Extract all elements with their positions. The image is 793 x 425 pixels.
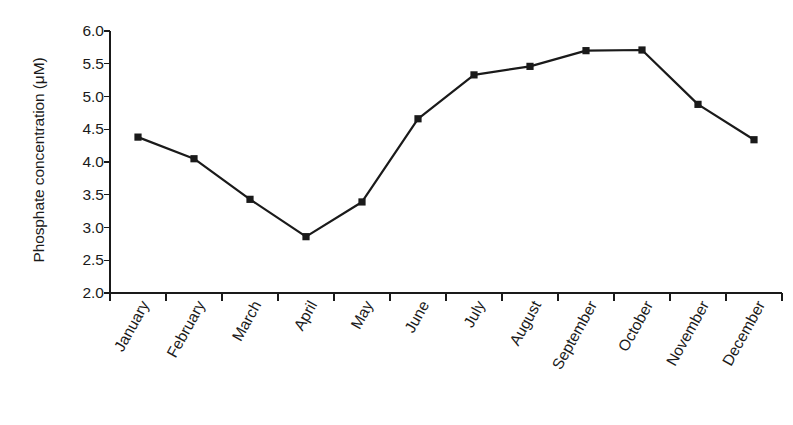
x-tick-label: May xyxy=(348,298,376,331)
x-tick-label: December xyxy=(720,298,768,368)
x-tick-label: October xyxy=(615,298,655,354)
x-tick-label: November xyxy=(664,298,712,368)
x-tick-label: June xyxy=(402,298,432,335)
x-tick-label: August xyxy=(507,298,544,348)
line-chart: Phosphate concentration (μM) 2.02.53.03.… xyxy=(0,0,793,425)
x-tick-label: March xyxy=(229,298,263,343)
x-tick-label: July xyxy=(461,298,488,330)
x-tick-label: September xyxy=(549,298,599,372)
x-axis-tick-labels: JanuaryFebruaryMarchAprilMayJuneJulyAugu… xyxy=(0,0,793,425)
x-tick-label: February xyxy=(164,298,208,360)
x-tick-label: April xyxy=(291,298,320,333)
x-tick-label: January xyxy=(111,298,151,354)
